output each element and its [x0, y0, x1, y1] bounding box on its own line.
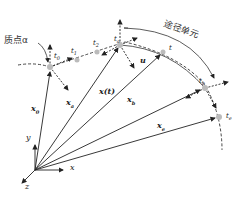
diagram-canvas	[0, 0, 246, 199]
axis-label-x: x	[70, 164, 75, 172]
particle-motion-arrows	[50, 20, 228, 108]
label-xb: xb	[127, 95, 135, 106]
particle-path	[18, 42, 222, 150]
label-t0: t0	[54, 53, 60, 61]
label-t: t	[169, 45, 172, 52]
label-t2: t2	[93, 40, 99, 48]
axis-label-z: z	[25, 183, 29, 191]
axis-label-y: y	[26, 134, 31, 142]
label-ta: ta	[114, 36, 120, 44]
particle-pointer	[38, 43, 48, 62]
label-xt: x(t)	[99, 87, 115, 95]
position-vectors	[35, 48, 215, 170]
label-xa: xa	[66, 98, 74, 109]
particle-label: 质点α	[4, 36, 28, 45]
label-u: u	[140, 56, 146, 64]
label-tb: tb	[199, 78, 205, 86]
path-element-bracket	[124, 28, 214, 78]
label-te: te	[226, 113, 232, 121]
label-t1: t1	[71, 48, 77, 56]
label-x0: x0	[31, 104, 39, 115]
label-xe: xe	[157, 121, 165, 132]
